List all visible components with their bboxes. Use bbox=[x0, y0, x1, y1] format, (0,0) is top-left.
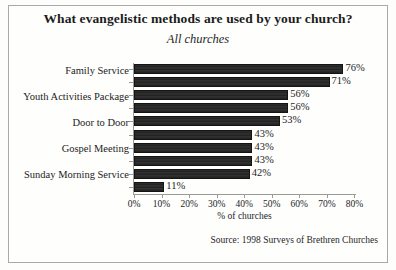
x-axis-tick bbox=[217, 194, 218, 198]
bar-row: 42% bbox=[134, 169, 290, 179]
bar bbox=[134, 143, 252, 153]
bar-value-label: 76% bbox=[345, 62, 364, 73]
bar-row: 43% bbox=[134, 156, 292, 166]
x-axis-tick bbox=[327, 194, 328, 198]
y-axis-tick bbox=[129, 95, 133, 96]
bar-value-label: 11% bbox=[166, 180, 185, 191]
x-axis-tick bbox=[244, 194, 245, 198]
y-axis-tick bbox=[129, 69, 133, 70]
y-axis-tick bbox=[129, 121, 133, 122]
bar-value-label: 56% bbox=[290, 88, 309, 99]
y-axis-tick bbox=[129, 135, 133, 136]
bar bbox=[134, 77, 330, 87]
bar-row: 43% bbox=[134, 143, 292, 153]
bar-row: 11% bbox=[134, 182, 204, 192]
bar bbox=[134, 169, 250, 179]
y-axis-tick bbox=[129, 108, 133, 109]
x-axis-tick bbox=[354, 194, 355, 198]
bar-value-label: 42% bbox=[252, 167, 271, 178]
bar-row: 56% bbox=[134, 90, 328, 100]
bar bbox=[134, 103, 288, 113]
x-axis-tick bbox=[134, 194, 135, 198]
x-axis-tick bbox=[299, 194, 300, 198]
bar-value-label: 43% bbox=[254, 141, 273, 152]
x-axis-tick-label: 30% bbox=[208, 199, 225, 209]
x-axis-label: % of churches bbox=[133, 211, 356, 221]
category-label: Youth Activities Package bbox=[23, 91, 129, 102]
x-axis-tick-label: 60% bbox=[291, 199, 308, 209]
x-axis-tick bbox=[272, 194, 273, 198]
y-axis-tick bbox=[129, 187, 133, 188]
bar-value-label: 56% bbox=[290, 101, 309, 112]
bar-value-label: 53% bbox=[282, 114, 301, 125]
bar-row: 53% bbox=[134, 116, 320, 126]
y-axis-tick bbox=[129, 174, 133, 175]
bar-value-label: 71% bbox=[332, 75, 351, 86]
x-axis-tick-label: 10% bbox=[153, 199, 170, 209]
y-axis-tick bbox=[129, 161, 133, 162]
y-axis-tick bbox=[129, 148, 133, 149]
bar bbox=[134, 156, 252, 166]
chart-subtitle: All churches bbox=[0, 32, 396, 47]
bar-row: 56% bbox=[134, 103, 328, 113]
bar bbox=[134, 116, 280, 126]
category-label: Family Service bbox=[65, 65, 129, 76]
x-axis-tick bbox=[162, 194, 163, 198]
category-label: Gospel Meeting bbox=[62, 143, 129, 154]
category-label: Door to Door bbox=[72, 117, 129, 128]
bar-row: 71% bbox=[134, 77, 370, 87]
bar-value-label: 43% bbox=[254, 154, 273, 165]
x-axis-tick bbox=[189, 194, 190, 198]
chart-title: What evangelistic methods are used by yo… bbox=[0, 11, 396, 27]
category-label: Sunday Morning Service bbox=[24, 169, 129, 180]
x-axis-tick-label: 0% bbox=[128, 199, 141, 209]
source-note: Source: 1998 Surveys of Brethren Churche… bbox=[210, 235, 378, 245]
bar-row: 43% bbox=[134, 130, 292, 140]
x-axis-tick-label: 20% bbox=[180, 199, 197, 209]
bar-row: 76% bbox=[134, 64, 383, 74]
chart-figure: What evangelistic methods are used by yo… bbox=[0, 0, 396, 270]
x-axis-tick-label: 80% bbox=[346, 199, 363, 209]
x-axis-tick-label: 50% bbox=[263, 199, 280, 209]
bar bbox=[134, 182, 164, 192]
y-axis-tick bbox=[129, 82, 133, 83]
x-axis-tick-label: 70% bbox=[318, 199, 335, 209]
bar bbox=[134, 90, 288, 100]
x-axis-tick-label: 40% bbox=[235, 199, 252, 209]
bar-value-label: 43% bbox=[254, 128, 273, 139]
bar bbox=[134, 130, 252, 140]
bar bbox=[134, 64, 343, 74]
